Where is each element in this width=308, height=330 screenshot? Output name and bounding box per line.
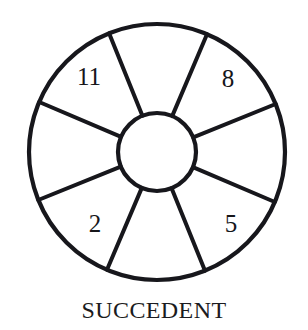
sector-label-5: 5 <box>225 210 238 237</box>
sector-label-11: 11 <box>77 63 101 90</box>
inner-hub-circle <box>118 113 196 191</box>
sector-label-2: 2 <box>89 210 102 237</box>
spoke-7 <box>38 167 121 200</box>
spoke-5 <box>172 188 205 271</box>
spoke-4 <box>193 167 275 202</box>
spoke-8 <box>39 102 121 137</box>
spoke-group <box>38 33 275 270</box>
house-wheel-diagram: 11 8 2 5 <box>0 0 308 295</box>
sector-label-8: 8 <box>222 65 235 92</box>
spoke-6 <box>107 188 142 270</box>
spoke-1 <box>109 33 142 116</box>
spoke-3 <box>193 104 276 137</box>
succedent-wheel-figure: 11 8 2 5 SUCCEDENT <box>0 0 308 330</box>
outer-rim-circle <box>29 24 285 280</box>
spoke-2 <box>172 34 207 116</box>
sector-label-group: 11 8 2 5 <box>77 63 237 237</box>
figure-caption: SUCCEDENT <box>0 297 308 324</box>
